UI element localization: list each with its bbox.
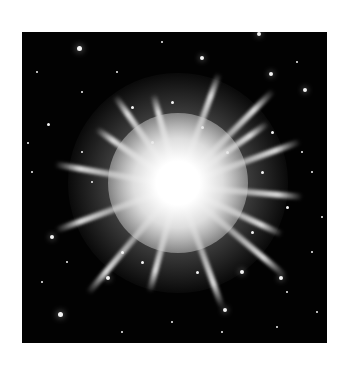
star	[171, 101, 174, 104]
star	[261, 171, 264, 174]
star	[223, 308, 227, 312]
star	[41, 281, 43, 283]
star	[81, 91, 83, 93]
star	[286, 291, 288, 293]
star	[47, 123, 50, 126]
star	[121, 331, 123, 333]
star	[196, 271, 199, 274]
star	[276, 326, 278, 328]
star	[221, 331, 223, 333]
star	[251, 231, 254, 234]
star	[121, 251, 124, 254]
star	[36, 71, 38, 73]
starburst-image	[22, 32, 327, 343]
star	[161, 41, 163, 43]
star	[141, 261, 144, 264]
star	[200, 56, 204, 60]
star	[296, 61, 298, 63]
star	[27, 142, 29, 144]
star	[240, 270, 244, 274]
star	[301, 151, 303, 153]
star	[316, 311, 318, 313]
star	[50, 235, 54, 239]
star	[271, 131, 274, 134]
star	[303, 88, 307, 92]
star	[66, 261, 68, 263]
star	[91, 181, 93, 183]
star	[131, 106, 134, 109]
star	[31, 171, 33, 173]
star	[311, 171, 313, 173]
star	[58, 312, 63, 317]
star	[77, 46, 82, 51]
star	[321, 216, 323, 218]
star	[311, 251, 313, 253]
star	[81, 151, 83, 153]
star	[279, 276, 283, 280]
bright-core	[108, 113, 248, 253]
star	[171, 321, 173, 323]
star	[106, 276, 110, 280]
star	[257, 32, 261, 36]
star	[116, 71, 118, 73]
star	[269, 72, 273, 76]
star	[286, 206, 289, 209]
